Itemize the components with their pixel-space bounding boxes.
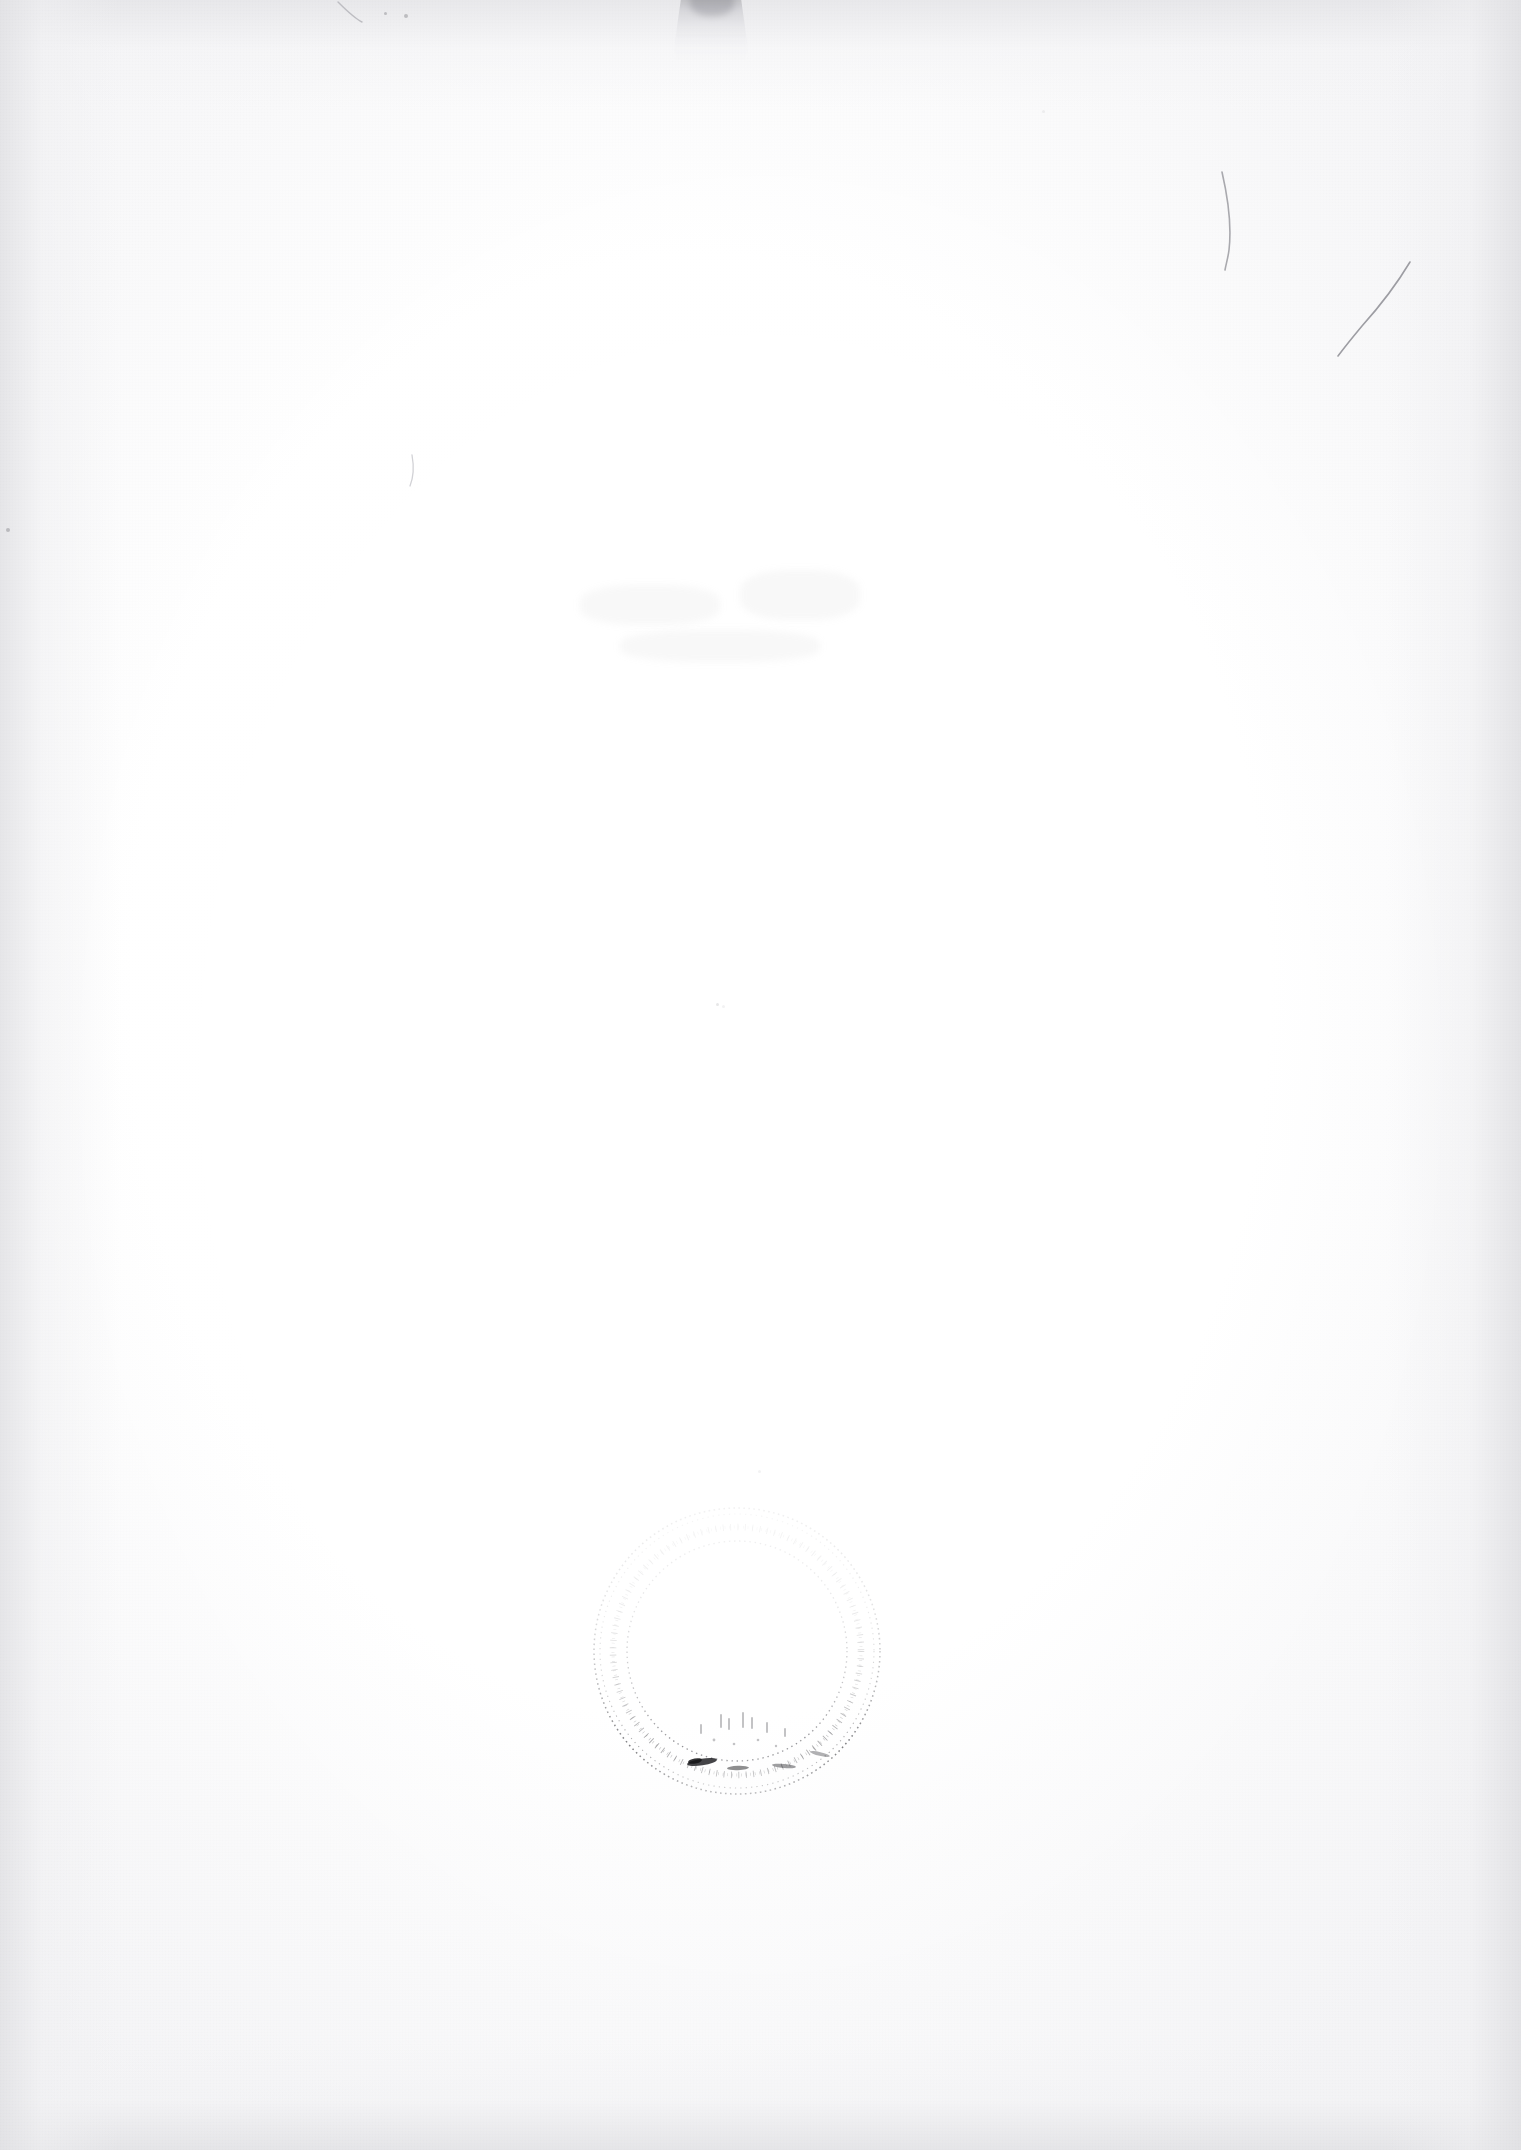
paper-background bbox=[0, 0, 1521, 2150]
scanned-page bbox=[0, 0, 1521, 2150]
